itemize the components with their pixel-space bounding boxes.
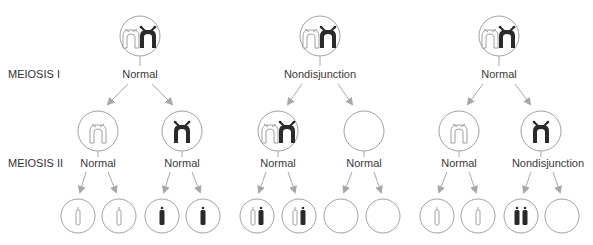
column-3: Normal Normal Nondisjunction <box>420 16 584 233</box>
meiosis2-event: Nondisjunction <box>512 157 584 169</box>
gamete-empty <box>366 199 400 233</box>
meiosis1-event: Normal <box>122 68 157 80</box>
meiosis1-event: Nondisjunction <box>284 68 356 80</box>
gamete <box>240 199 274 233</box>
gamete-empty <box>545 199 579 233</box>
meiosis2-event: Normal <box>164 157 199 169</box>
gamete-empty <box>324 199 358 233</box>
meiosis2-event: Normal <box>260 157 295 169</box>
daughter-cell <box>439 111 479 151</box>
nondisjunction-diagram: MEIOSIS I MEIOSIS II Normal Normal Norma… <box>0 0 593 245</box>
meiosis2-event: Normal <box>441 157 476 169</box>
column-1: Normal Normal Normal <box>61 16 220 233</box>
daughter-cell <box>78 111 118 151</box>
meiosis2-event: Normal <box>80 157 115 169</box>
daughter-cell-empty <box>344 111 384 151</box>
stage-label-meiosis-1: MEIOSIS I <box>8 68 60 80</box>
column-2: Nondisjunction Normal Normal <box>240 16 400 233</box>
daughter-cell <box>162 111 202 151</box>
daughter-cell <box>521 111 561 151</box>
stage-label-meiosis-2: MEIOSIS II <box>8 157 63 169</box>
meiosis1-event: Normal <box>481 68 516 80</box>
gamete <box>282 199 316 233</box>
gamete <box>504 199 538 233</box>
meiosis2-event: Normal <box>346 157 381 169</box>
